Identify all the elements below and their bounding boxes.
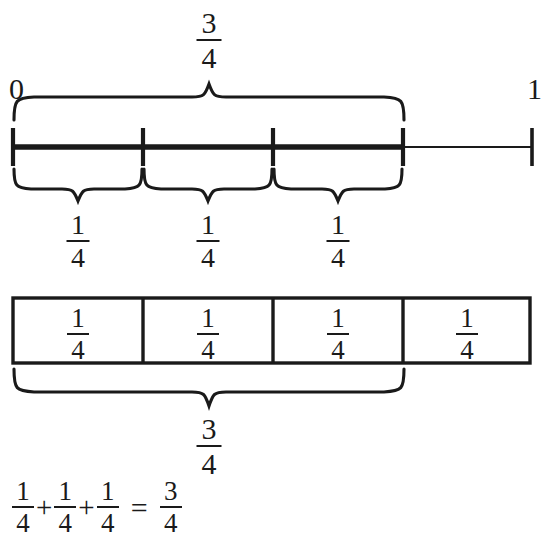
equals-operator: =	[119, 493, 160, 523]
segment-brace-2	[144, 169, 272, 201]
fraction-denominator: 4	[59, 508, 73, 537]
fraction-denominator: 4	[201, 335, 215, 364]
fraction-numerator: 3	[202, 414, 217, 445]
fraction-numerator: 1	[201, 211, 215, 240]
plus-operator-1: +	[34, 493, 54, 522]
fraction-denominator: 4	[71, 242, 85, 272]
fraction-denominator: 4	[202, 41, 217, 73]
number-line-start-label: 0	[9, 74, 24, 104]
bar-model-brace-fraction-label: 3 4	[197, 414, 222, 479]
bar-model-brace-three-quarters	[14, 369, 404, 406]
fraction-numerator: 1	[101, 478, 115, 506]
fraction-numerator: 1	[71, 305, 85, 333]
number-line-end-label: 1	[527, 74, 542, 104]
segment-brace-1	[14, 169, 142, 201]
fraction-denominator: 4	[331, 242, 345, 272]
bar-cell-fraction-2: 1 4	[197, 305, 219, 364]
segment-fraction-label-2: 1 4	[197, 211, 220, 272]
equation: 1 4 + 1 4 + 1 4 = 3 4	[12, 478, 182, 537]
fraction-denominator: 4	[16, 508, 30, 537]
fraction-numerator: 1	[71, 211, 85, 240]
fraction-numerator: 1	[331, 211, 345, 240]
top-brace-fraction-label: 3 4	[197, 8, 222, 73]
equation-term-3: 1 4	[97, 478, 119, 537]
fraction-denominator: 4	[202, 447, 217, 479]
equation-result: 3 4	[160, 478, 182, 537]
bar-cell-fraction-4: 1 4	[456, 305, 478, 364]
bar-cell-fraction-1: 1 4	[67, 305, 89, 364]
fraction-denominator: 4	[101, 508, 115, 537]
fraction-numerator: 1	[460, 305, 474, 333]
segment-brace-3	[274, 169, 402, 201]
fraction-numerator: 3	[164, 478, 178, 506]
bar-cell-fraction-3: 1 4	[327, 305, 349, 364]
fraction-denominator: 4	[460, 335, 474, 364]
fraction-denominator: 4	[71, 335, 85, 364]
fraction-numerator: 1	[201, 305, 215, 333]
segment-fraction-label-1: 1 4	[67, 211, 90, 272]
fraction-numerator: 1	[59, 478, 73, 506]
equation-term-2: 1 4	[54, 478, 76, 537]
fraction-numerator: 3	[202, 8, 217, 39]
fraction-denominator: 4	[201, 242, 215, 272]
fraction-denominator: 4	[164, 508, 178, 537]
segment-fraction-label-3: 1 4	[327, 211, 350, 272]
top-brace-three-quarters	[14, 84, 404, 120]
fraction-numerator: 1	[331, 305, 345, 333]
fraction-denominator: 4	[331, 335, 345, 364]
fraction-numerator: 1	[16, 478, 30, 506]
plus-operator-2: +	[76, 493, 96, 522]
equation-term-1: 1 4	[12, 478, 34, 537]
